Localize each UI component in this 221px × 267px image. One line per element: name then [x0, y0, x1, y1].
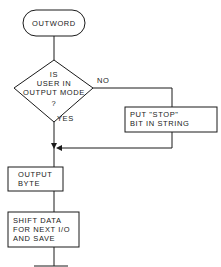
- no-label: NO: [97, 76, 109, 85]
- arrow-left-icon: [56, 145, 62, 151]
- step1-line-1: OUTPUT: [18, 170, 52, 179]
- decision-line-1: IS: [50, 70, 58, 79]
- decision-line-2: USER IN: [37, 79, 72, 88]
- decision-line-4: ?: [52, 99, 57, 108]
- flowchart-diagram: OUTWORD IS USER IN OUTPUT MODE ? NO YES …: [0, 0, 221, 267]
- arrow-down-icon: [51, 143, 57, 149]
- decision-line-3: OUTPUT MODE: [23, 88, 85, 97]
- no-branch-line-2: BIT IN STRING: [130, 119, 189, 128]
- yes-label: YES: [57, 114, 74, 123]
- start-label: OUTWORD: [32, 19, 76, 28]
- step2-line-1: SHIFT DATA: [13, 216, 62, 225]
- step2-line-2: FOR NEXT I/O: [13, 225, 70, 234]
- step2-line-3: AND SAVE: [13, 234, 55, 243]
- no-branch-line: [93, 88, 172, 107]
- step1-line-2: BYTE: [18, 179, 40, 188]
- no-branch-line-1: PUT "STOP": [130, 110, 179, 119]
- merge-line: [60, 132, 172, 148]
